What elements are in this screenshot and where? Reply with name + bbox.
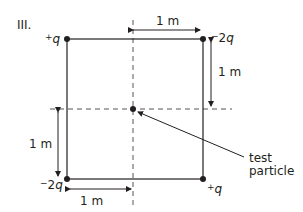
dimension-label-left: 1 m	[29, 137, 52, 151]
charge-label-bottom-right: +q	[207, 182, 223, 196]
charge-label-top-left: +q	[45, 32, 61, 46]
charge-dot-bottom-left	[64, 176, 70, 182]
charge-label-bottom-left: −2q	[40, 178, 63, 192]
charge-dot-bottom-right	[200, 176, 206, 182]
charge-square-diagram: III. +q −2q −2q +q 1 m 1 m 1 m 1 m test …	[0, 0, 303, 212]
charge-dot-top-right	[200, 36, 206, 42]
dimension-label-top: 1 m	[156, 14, 179, 28]
figure-label: III.	[17, 18, 31, 32]
dimension-label-right: 1 m	[218, 65, 241, 79]
dimension-label-bottom: 1 m	[80, 194, 103, 208]
test-particle-label-line1: test	[249, 151, 272, 165]
test-particle-dot	[130, 106, 136, 112]
test-particle-label-line2: particle	[249, 164, 294, 178]
test-particle-pointer	[138, 112, 244, 157]
charge-label-top-right: −2q	[211, 31, 234, 45]
charge-dot-top-left	[64, 36, 70, 42]
